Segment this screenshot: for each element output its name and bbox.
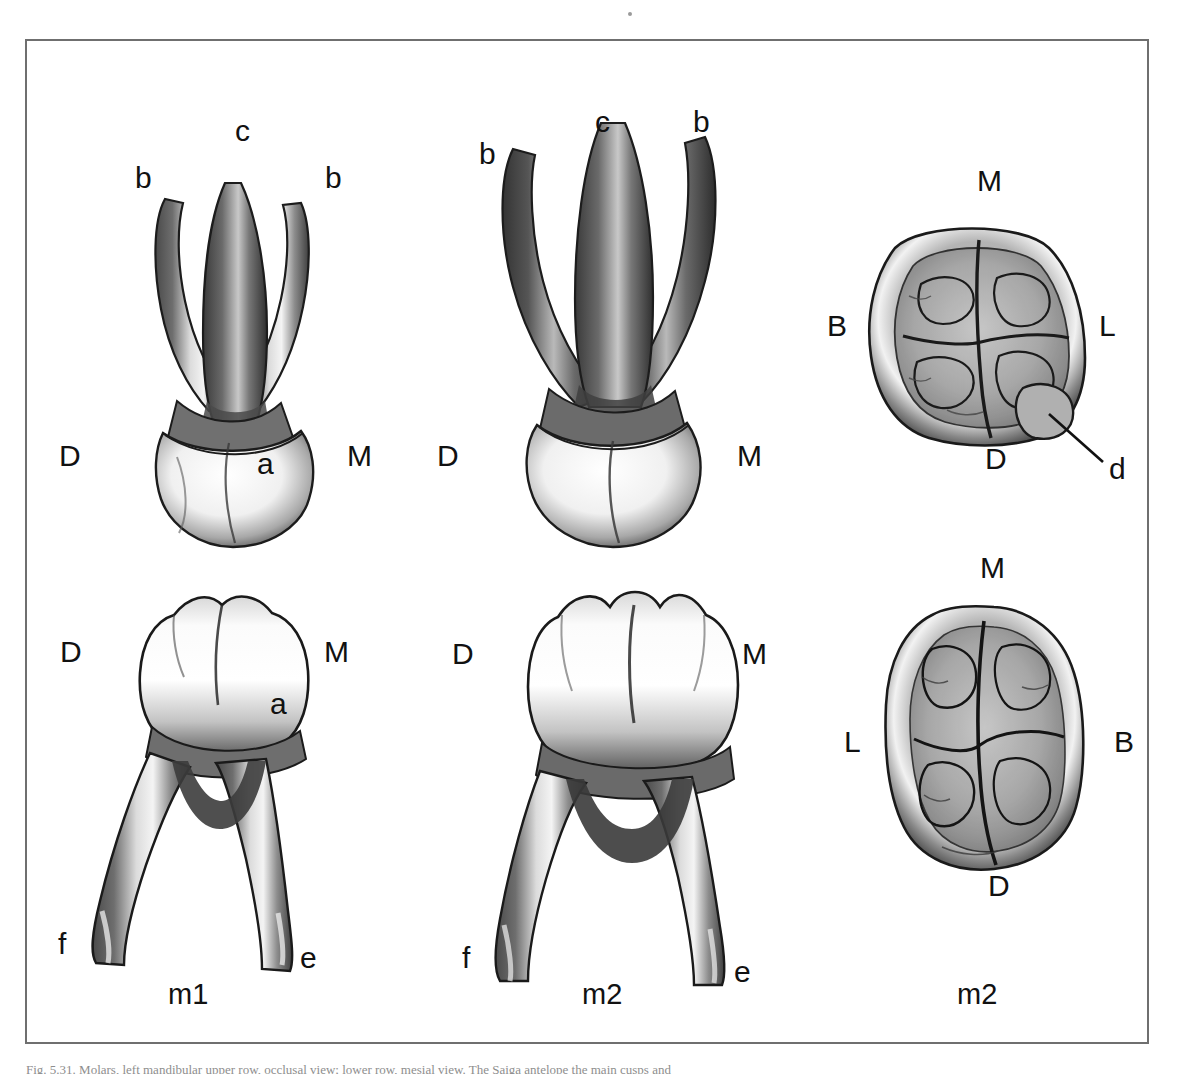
label-b-right: b xyxy=(693,107,710,137)
label-d-distal: D xyxy=(985,444,1007,474)
figure-frame: b c b D a M b c b D M xyxy=(25,39,1149,1044)
label-m-mesial: M xyxy=(742,639,767,669)
label-b-buccal: B xyxy=(827,311,847,341)
label-e-root: e xyxy=(300,943,317,973)
lower-first-molar-illustration xyxy=(52,561,392,981)
upper-second-molar-illustration xyxy=(437,59,787,539)
panel-occlusal-lower-second-molar: M L B D xyxy=(822,559,1142,909)
label-f-root: f xyxy=(58,929,66,959)
label-m-mesial: M xyxy=(737,441,762,471)
label-d-cusp: d xyxy=(1109,454,1126,484)
panel-upper-second-molar: b c b D M xyxy=(437,59,787,539)
column-caption-m2-mesial: m2 xyxy=(582,978,622,1011)
label-m-mesial: M xyxy=(977,166,1002,196)
lower-second-molar-illustration xyxy=(452,561,802,991)
label-b-buccal: B xyxy=(1114,727,1134,757)
label-d-distal: D xyxy=(59,441,81,471)
panel-lower-second-molar: D M f e xyxy=(452,561,802,991)
leader-line-d-cusp xyxy=(1049,414,1103,462)
page-marker-dot xyxy=(628,12,632,16)
label-a-cusp: a xyxy=(257,449,274,479)
label-l-lingual: L xyxy=(844,727,861,757)
column-caption-m2-occlusal: m2 xyxy=(957,978,997,1011)
figure-caption: Fig. 5.31. Molars, left mandibular upper… xyxy=(26,1062,1166,1074)
panel-occlusal-upper-second-molar: M B L D d xyxy=(817,166,1147,476)
label-m-mesial: M xyxy=(980,553,1005,583)
upper-second-molar-occlusal-illustration xyxy=(817,166,1147,476)
label-b-left: b xyxy=(135,163,152,193)
label-d-distal: D xyxy=(437,441,459,471)
label-d-distal: D xyxy=(988,871,1010,901)
label-l-lingual: L xyxy=(1099,311,1116,341)
upper-first-molar-illustration xyxy=(57,71,397,541)
label-c-apex: c xyxy=(595,107,610,137)
label-b-right: b xyxy=(325,163,342,193)
label-f-root: f xyxy=(462,943,470,973)
column-caption-m1: m1 xyxy=(168,978,208,1011)
label-m-mesial: M xyxy=(324,637,349,667)
panel-lower-first-molar: D M a f e xyxy=(52,561,392,981)
label-c-apex: c xyxy=(235,116,250,146)
label-d-distal: D xyxy=(60,637,82,667)
lower-second-molar-occlusal-illustration xyxy=(822,559,1142,909)
label-e-root: e xyxy=(734,957,751,987)
panel-upper-first-molar: b c b D a M xyxy=(57,71,397,541)
label-b-left: b xyxy=(479,139,496,169)
label-a-cusp: a xyxy=(270,689,287,719)
label-d-distal: D xyxy=(452,639,474,669)
label-m-mesial: M xyxy=(347,441,372,471)
